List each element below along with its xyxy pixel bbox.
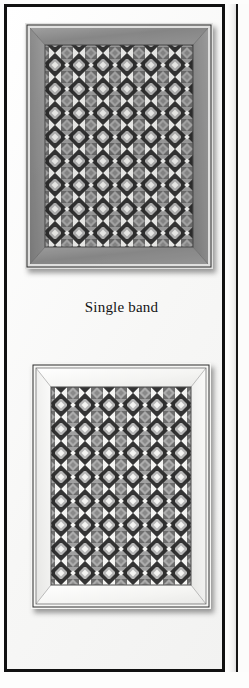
document-page-sheet: Single band	[4, 4, 225, 672]
quilt-bottom-image	[31, 363, 211, 609]
page-gutter-shadow	[228, 4, 236, 672]
page-root: Single band	[0, 0, 249, 688]
quilt-top-image	[25, 23, 213, 269]
figure-caption: Single band	[11, 299, 232, 316]
adjacent-page-sliver	[236, 4, 249, 672]
quilt-photograph-top	[25, 23, 213, 269]
quilt-photograph-bottom	[31, 363, 211, 609]
